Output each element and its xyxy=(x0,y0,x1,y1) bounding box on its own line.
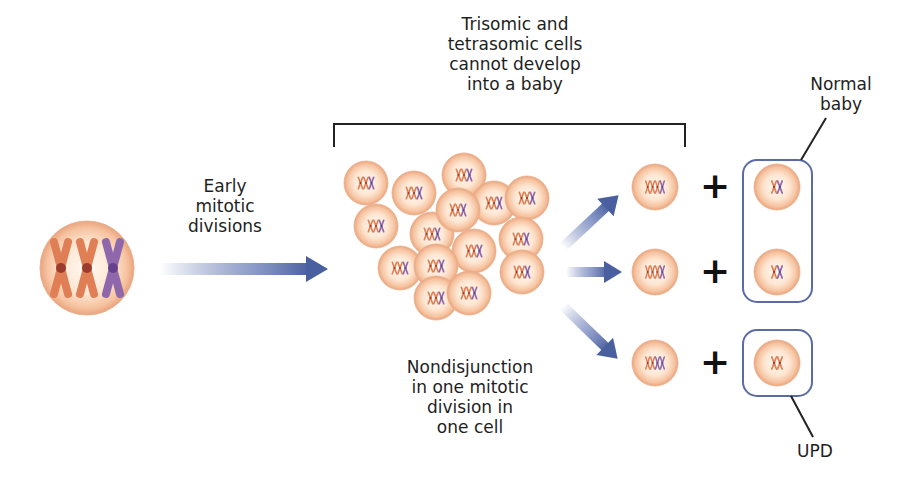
cluster-cell xyxy=(344,161,388,205)
plus-sign-2: + xyxy=(699,253,731,289)
upd-pointer xyxy=(791,396,813,437)
daughter-cell-3 xyxy=(754,340,800,386)
plus-sign-1: + xyxy=(699,168,731,204)
founder-cell-trisomic xyxy=(40,221,134,315)
cluster-cell xyxy=(392,171,436,215)
diverging-arrow-down xyxy=(555,297,626,367)
bracket xyxy=(334,124,685,147)
cluster-cell xyxy=(500,250,544,294)
daughter-cell-2 xyxy=(754,249,800,295)
cluster-cell xyxy=(436,188,480,232)
early-mitotic-label: Early mitotic divisions xyxy=(170,176,280,236)
daughter-cell-1 xyxy=(754,164,800,210)
tetrasomic-cell-1 xyxy=(632,164,678,210)
cluster-cell xyxy=(354,204,398,248)
normal-baby-label: Normal baby xyxy=(801,74,881,114)
cluster-cell xyxy=(452,229,496,273)
cell-cluster xyxy=(344,153,549,320)
upd-label: UPD xyxy=(787,441,843,461)
early-mitotic-arrow xyxy=(160,256,328,282)
nondisjunction-label: Nondisjunction in one mitotic division i… xyxy=(380,357,560,437)
diverging-arrow-middle xyxy=(566,261,622,283)
cluster-cell xyxy=(505,176,549,220)
plus-sign-3: + xyxy=(699,344,731,380)
cluster-cell xyxy=(447,271,491,315)
normal-baby-pointer xyxy=(801,118,826,160)
tetrasomic-cell-2 xyxy=(632,249,678,295)
tetrasomic-cell-3 xyxy=(632,340,678,386)
diverging-arrow-up xyxy=(555,186,627,255)
trisomic-heading: Trisomic and tetrasomic cells cannot dev… xyxy=(415,14,615,94)
